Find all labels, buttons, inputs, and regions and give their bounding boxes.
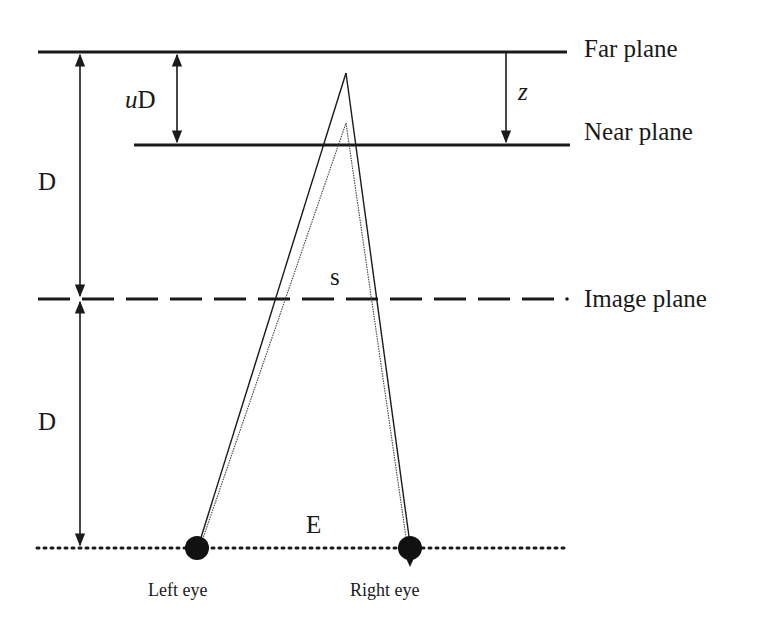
image-plane-label: Image plane bbox=[584, 285, 707, 312]
s-label: s bbox=[330, 263, 340, 290]
right-eye-tail bbox=[406, 558, 414, 567]
near-plane-label: Near plane bbox=[584, 118, 693, 145]
far-plane-label: Far plane bbox=[584, 35, 678, 62]
right-eye-dot bbox=[398, 536, 422, 560]
left-eye-label: Left eye bbox=[148, 580, 207, 600]
ud-label-u: u bbox=[125, 86, 138, 113]
right-eye-label: Right eye bbox=[350, 580, 420, 600]
ray-right-eye-near-point bbox=[346, 123, 407, 544]
e-label: E bbox=[306, 511, 321, 538]
z-label: z bbox=[517, 78, 528, 105]
ray-left-eye-near-point bbox=[201, 123, 346, 544]
image-plane-end-dot bbox=[565, 297, 569, 301]
left-eye-dot bbox=[185, 536, 209, 560]
ud-label: uD bbox=[125, 86, 156, 113]
d-lower-label: D bbox=[38, 408, 56, 435]
d-upper-label: D bbox=[38, 168, 56, 195]
ud-label-d: D bbox=[138, 86, 156, 113]
stereo-geometry-diagram: Far plane Near plane Image plane D D uD … bbox=[0, 0, 762, 632]
